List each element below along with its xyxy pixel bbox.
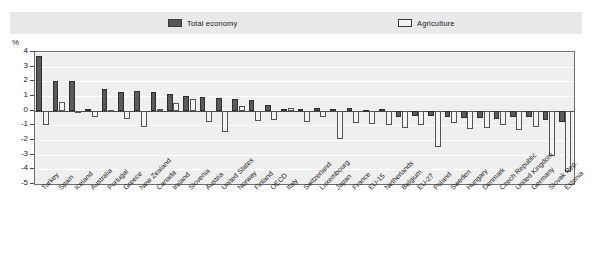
- bar-agriculture: [337, 111, 343, 139]
- bar-agriculture: [239, 106, 245, 111]
- x-axis-label-layer: TurkeySpainIcelandAustraliaPortugalGreec…: [34, 186, 575, 260]
- legend-swatch-agriculture-icon: [398, 19, 412, 27]
- bar-agriculture: [43, 111, 49, 126]
- bar-total-economy: [461, 111, 467, 118]
- chart-container: Total economy Agriculture % 43210-1-2-3-…: [0, 0, 592, 260]
- bar-agriculture: [92, 111, 98, 118]
- bar-total-economy: [477, 111, 483, 118]
- bar-total-economy: [134, 91, 140, 111]
- legend-swatch-total-economy-icon: [168, 19, 182, 27]
- bar-total-economy: [85, 109, 91, 111]
- bar-agriculture: [75, 111, 81, 113]
- bar-total-economy: [36, 56, 42, 110]
- bar-agriculture: [157, 109, 163, 111]
- bar-agriculture: [451, 111, 457, 124]
- bar-total-economy: [494, 111, 500, 119]
- bar-agriculture: [369, 111, 375, 124]
- bar-total-economy: [200, 97, 206, 111]
- bars-layer: [35, 52, 574, 184]
- bar-agriculture: [467, 111, 473, 129]
- bar-agriculture: [59, 102, 65, 111]
- legend-label-total-economy: Total economy: [187, 19, 237, 28]
- y-axis-tick-label: 1: [2, 91, 28, 99]
- bar-total-economy: [249, 100, 255, 111]
- bar-total-economy: [216, 98, 222, 111]
- legend-band: [10, 12, 582, 34]
- y-axis-tick-label: 4: [2, 47, 28, 55]
- y-axis-tick-label: -5: [2, 179, 28, 187]
- y-axis-tick-label: -1: [2, 120, 28, 128]
- bar-total-economy: [232, 99, 238, 111]
- bar-total-economy: [167, 94, 173, 111]
- bar-total-economy: [102, 89, 108, 111]
- y-axis-tick-label: 3: [2, 62, 28, 70]
- bar-agriculture: [320, 111, 326, 117]
- bar-agriculture: [124, 111, 130, 120]
- bar-agriculture: [353, 111, 359, 124]
- bar-agriculture: [255, 111, 261, 121]
- bar-total-economy: [151, 92, 157, 110]
- bar-total-economy: [265, 105, 271, 111]
- bar-agriculture: [435, 111, 441, 148]
- legend-item-total-economy: Total economy: [168, 12, 237, 34]
- bar-agriculture: [206, 111, 212, 122]
- y-axis-tick-label: -2: [2, 135, 28, 143]
- bar-total-economy: [559, 111, 565, 122]
- bar-total-economy: [428, 111, 434, 116]
- bar-total-economy: [330, 109, 336, 111]
- bar-agriculture: [500, 111, 506, 126]
- bar-total-economy: [396, 111, 402, 117]
- bar-agriculture: [271, 111, 277, 121]
- bar-total-economy: [53, 81, 59, 110]
- plot-area: [34, 51, 575, 185]
- bar-agriculture: [304, 111, 310, 122]
- bar-agriculture: [533, 111, 539, 127]
- bar-agriculture: [141, 111, 147, 127]
- bar-total-economy: [298, 109, 304, 111]
- y-axis-tick-label: 2: [2, 76, 28, 84]
- bar-total-economy: [412, 111, 418, 116]
- bar-total-economy: [445, 111, 451, 117]
- bar-total-economy: [543, 111, 549, 121]
- legend-label-agriculture: Agriculture: [417, 19, 455, 28]
- y-axis-tick-label: -3: [2, 150, 28, 158]
- bar-total-economy: [183, 96, 189, 111]
- y-axis-unit-label: %: [12, 38, 19, 47]
- bar-total-economy: [379, 109, 385, 111]
- legend-item-agriculture: Agriculture: [398, 12, 455, 34]
- bar-total-economy: [314, 108, 320, 111]
- y-axis-tick-label: -4: [2, 164, 28, 172]
- bar-agriculture: [516, 111, 522, 131]
- y-axis-tick-label: 0: [2, 106, 28, 114]
- bar-total-economy: [281, 109, 287, 111]
- bar-agriculture: [549, 111, 555, 157]
- bar-total-economy: [118, 92, 124, 111]
- bar-agriculture: [173, 103, 179, 111]
- bar-agriculture: [484, 111, 490, 129]
- bar-agriculture: [222, 111, 228, 132]
- bar-agriculture: [418, 111, 424, 126]
- bar-agriculture: [386, 111, 392, 125]
- bar-total-economy: [69, 81, 75, 110]
- bar-total-economy: [510, 111, 516, 118]
- bar-total-economy: [526, 111, 532, 118]
- bar-agriculture: [288, 108, 294, 111]
- bar-agriculture: [190, 99, 196, 111]
- bar-total-economy: [363, 110, 369, 112]
- bar-agriculture: [108, 110, 114, 112]
- bar-total-economy: [347, 108, 353, 111]
- bar-agriculture: [402, 111, 408, 128]
